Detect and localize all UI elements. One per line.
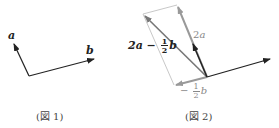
label-2a-minus-half-b: 2a − 1 2 b	[128, 37, 177, 54]
label-combo-var: b	[169, 39, 177, 52]
vector-b	[29, 59, 94, 76]
label-2a-var: a	[199, 29, 205, 40]
caption-figure-1: (図 1)	[36, 108, 63, 123]
fraction-one-half: 1 2	[161, 37, 169, 54]
caption-figure-2: (図 2)	[185, 108, 212, 123]
label-neg-half-b: − 1 2 b	[180, 83, 207, 100]
label-2a: 2a	[193, 29, 205, 40]
fraction-denominator: 2	[161, 46, 169, 54]
fraction-denominator: 2	[193, 92, 200, 100]
label-a: a	[8, 29, 15, 42]
label-combo-prefix: 2a −	[128, 39, 156, 52]
vector-b-fig2	[207, 59, 270, 77]
label-neg-half-b-var: b	[201, 85, 207, 96]
vector-a	[14, 44, 29, 76]
vector-a-fig2	[193, 44, 207, 77]
guide-top-edge	[143, 5, 177, 14]
label-b: b	[86, 44, 94, 57]
figure-1	[14, 44, 94, 76]
label-neg-sign: −	[180, 85, 188, 96]
fraction-one-half-small: 1 2	[193, 83, 200, 100]
